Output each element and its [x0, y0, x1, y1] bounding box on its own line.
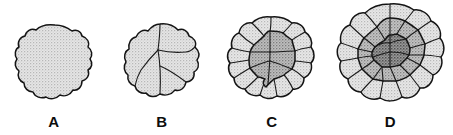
- growth-stages-figure: A B: [0, 0, 453, 135]
- panel-a-label: A: [0, 114, 108, 129]
- panel-c: C: [216, 0, 328, 135]
- specimen-c: [228, 17, 314, 99]
- specimen-a-outline: [15, 25, 91, 99]
- panel-b-label: B: [108, 114, 216, 129]
- specimen-a: [15, 25, 91, 99]
- specimen-d: [337, 4, 444, 101]
- panel-d-label: D: [328, 114, 453, 129]
- panel-c-label: C: [216, 114, 328, 129]
- panel-a: A: [0, 0, 108, 135]
- panel-b: B: [108, 0, 216, 135]
- specimen-b: [124, 24, 198, 97]
- panel-d: D: [328, 0, 453, 135]
